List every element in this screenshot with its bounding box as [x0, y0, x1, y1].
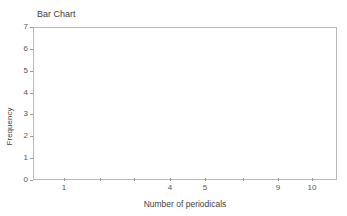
plot-frame — [33, 27, 337, 180]
y-axis-tick-mark — [30, 93, 33, 94]
y-axis-tick-mark — [30, 158, 33, 159]
x-axis-tick-mark — [278, 178, 279, 181]
x-axis-tick-label: 5 — [203, 183, 207, 192]
x-axis-title: Number of periodicals — [33, 199, 337, 209]
y-axis-tick-mark — [30, 49, 33, 50]
y-axis-tick-label: 2 — [24, 131, 28, 140]
cropped-header-text — [0, 0, 347, 5]
y-axis-tick-mark — [30, 27, 33, 28]
x-axis-tick-label: 1 — [62, 183, 66, 192]
y-axis-tick-label: 0 — [24, 175, 28, 184]
chart-title: Bar Chart — [37, 9, 76, 20]
y-axis-tick-mark — [30, 114, 33, 115]
y-axis-tick-label: 3 — [24, 109, 28, 118]
y-axis-tick-label: 5 — [24, 66, 28, 75]
y-axis-tick-label: 6 — [24, 44, 28, 53]
x-axis-tick-label: 4 — [168, 183, 172, 192]
x-axis-tick-mark — [64, 178, 65, 181]
x-axis-tick-mark — [134, 178, 135, 181]
y-axis-tick-mark — [30, 136, 33, 137]
y-axis-title: Frequency — [5, 92, 14, 162]
bar-chart-figure: Bar Chart 76543210 Frequency 145910 Numb… — [0, 0, 347, 216]
x-axis-tick-mark — [170, 178, 171, 181]
x-axis-tick-label: 9 — [276, 183, 280, 192]
plot-area — [34, 28, 336, 179]
x-axis-tick-label: 10 — [308, 183, 317, 192]
x-axis-tick-mark — [205, 178, 206, 181]
y-axis-tick-label: 4 — [24, 88, 28, 97]
x-axis-tick-mark — [312, 178, 313, 181]
y-axis-tick-mark — [30, 71, 33, 72]
x-axis-tick-mark — [100, 178, 101, 181]
y-axis-tick-label: 7 — [24, 22, 28, 31]
x-axis-tick-mark — [243, 178, 244, 181]
x-axis: 145910 — [33, 180, 337, 198]
y-axis-tick-label: 1 — [24, 153, 28, 162]
